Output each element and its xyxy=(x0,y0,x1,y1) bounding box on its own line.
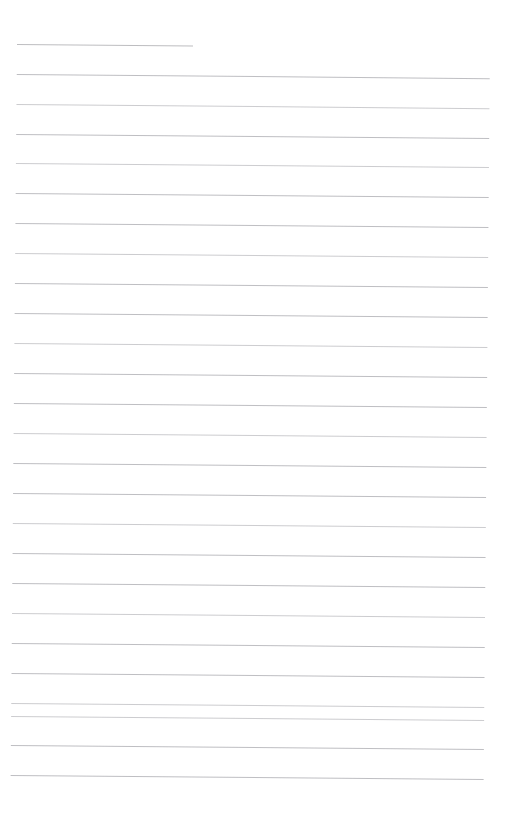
ruled-line xyxy=(13,523,486,528)
ruled-line xyxy=(16,163,489,168)
ruled-line xyxy=(14,433,487,438)
ruled-line xyxy=(12,583,485,588)
ruled-line xyxy=(16,134,489,139)
ruled-line xyxy=(15,283,488,288)
ruled-line xyxy=(12,613,485,618)
ruled-line xyxy=(13,553,486,558)
ruled-line xyxy=(14,403,487,408)
ruled-line xyxy=(16,193,489,198)
ruled-line xyxy=(15,223,488,228)
ruled-line xyxy=(14,373,487,378)
ruled-line xyxy=(14,343,487,348)
ruled-line xyxy=(12,673,485,678)
ruled-line xyxy=(16,104,489,109)
ruled-line xyxy=(17,74,490,79)
ruled-line xyxy=(11,716,484,721)
ruled-line-short xyxy=(17,44,193,47)
ruled-line xyxy=(15,313,488,318)
ruled-line xyxy=(13,493,486,498)
ruled-line xyxy=(11,745,484,750)
ruled-line xyxy=(11,703,484,708)
ruled-line xyxy=(13,463,486,468)
ruled-line xyxy=(12,643,485,648)
ruled-line xyxy=(11,775,484,780)
ruled-lines-group xyxy=(0,0,512,817)
document-page xyxy=(0,0,512,817)
ruled-line xyxy=(15,253,488,258)
